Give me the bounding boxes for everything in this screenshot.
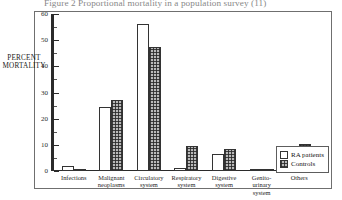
y-axis-title-line1: PERCENT bbox=[1, 54, 47, 62]
category-labels: InfectionsMalignant neoplasmsCirculatory… bbox=[55, 174, 318, 196]
bar-group bbox=[205, 14, 243, 171]
category-label: Circulatory system bbox=[130, 174, 168, 189]
bar-controls bbox=[111, 100, 123, 171]
category-label: Respiratory system bbox=[168, 174, 206, 189]
category-label: Infections bbox=[55, 174, 93, 181]
y-tick-label: 10 bbox=[41, 141, 48, 149]
bar-controls bbox=[224, 149, 236, 171]
legend-item-ra-patients: RA patients bbox=[280, 151, 324, 159]
y-tick-label: 20 bbox=[41, 115, 48, 123]
legend-item-controls: Controls bbox=[280, 160, 324, 168]
bar-controls bbox=[74, 169, 86, 171]
bar-ra-patients bbox=[212, 154, 224, 171]
category-label: Genito-urinary system bbox=[243, 174, 281, 196]
legend-label-ra-patients: RA patients bbox=[291, 151, 324, 159]
legend-swatch-ra-patients bbox=[280, 151, 288, 159]
bar-ra-patients bbox=[99, 107, 111, 171]
y-tick-mark bbox=[54, 171, 59, 172]
bar-controls bbox=[262, 169, 274, 171]
bar-ra-patients bbox=[137, 24, 149, 171]
legend-swatch-controls bbox=[280, 160, 288, 168]
y-tick-label: 50 bbox=[41, 36, 48, 44]
bar-group bbox=[130, 14, 168, 171]
bar-group bbox=[93, 14, 131, 171]
bar-ra-patients bbox=[62, 166, 74, 171]
y-tick-label: 60 bbox=[41, 10, 48, 18]
bar-group bbox=[55, 14, 93, 171]
category-label: Digestive system bbox=[205, 174, 243, 189]
bar-group bbox=[243, 14, 281, 171]
y-tick-label: 0 bbox=[45, 167, 49, 175]
chart-legend: RA patients Controls bbox=[276, 146, 329, 173]
figure-title: Figure 2 Proportional mortality in a pop… bbox=[44, 0, 334, 8]
category-label: Others bbox=[280, 174, 318, 181]
y-tick-label: 30 bbox=[41, 89, 48, 97]
legend-label-controls: Controls bbox=[291, 160, 315, 168]
bar-controls bbox=[186, 146, 198, 171]
bar-group bbox=[168, 14, 206, 171]
bar-controls bbox=[149, 47, 161, 171]
category-label: Malignant neoplasms bbox=[93, 174, 131, 189]
figure-root: Figure 2 Proportional mortality in a pop… bbox=[0, 0, 342, 200]
bar-ra-patients bbox=[174, 168, 186, 171]
y-tick-label: 40 bbox=[41, 62, 48, 70]
bar-ra-patients bbox=[250, 169, 262, 171]
